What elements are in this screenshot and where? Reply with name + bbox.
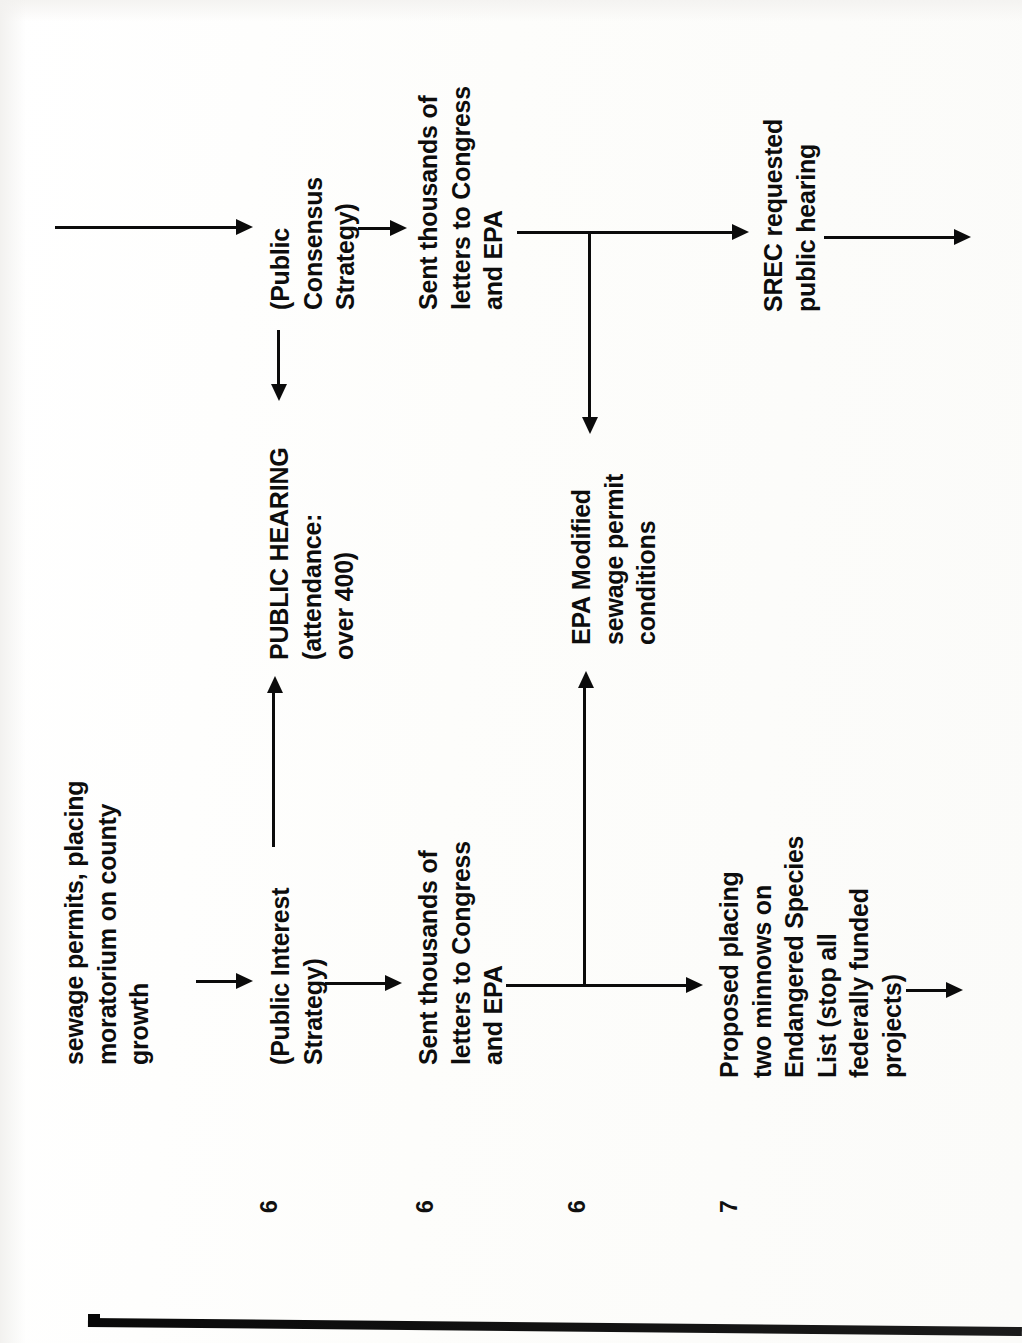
node-sewage-permits: sewage permits, placing moratorium on co…	[58, 781, 156, 1065]
node-line: conditions	[630, 474, 663, 645]
page-edge-shading-top	[0, 0, 1022, 22]
scan-artifact-bar-cap	[88, 1314, 100, 1327]
connector-srec-continue-line	[824, 236, 956, 239]
node-line: PUBLIC HEARING	[263, 448, 296, 660]
connector-consensus-to-letters-upper-line	[358, 227, 392, 230]
page-mark: 7	[716, 1200, 743, 1213]
scanned-page-background	[0, 0, 1022, 1343]
arrow-consensus-to-letters-upper-head	[390, 220, 407, 236]
arrow-letters-lower-to-minnows-head	[686, 977, 703, 993]
connector-interest-up-line	[272, 690, 275, 847]
node-line: Sent thousands of	[412, 86, 445, 310]
node-public-interest-strategy: (Public Interest Strategy)	[264, 888, 329, 1065]
node-epa-modified: EPA Modified sewage permit conditions	[565, 474, 663, 645]
node-line: sewage permit	[598, 474, 631, 645]
connector-letters-lower-to-minnows-line	[506, 984, 688, 987]
node-line: letters to Congress	[445, 86, 478, 310]
node-line: Endangered Species	[778, 836, 811, 1078]
node-line: Strategy)	[329, 177, 362, 310]
node-line: (Public Interest	[264, 888, 297, 1065]
node-line: EPA Modified	[565, 474, 598, 645]
arrow-interest-to-letters-lower-head	[385, 975, 402, 991]
node-line: and EPA	[477, 86, 510, 310]
connector-interest-to-letters-lower-line	[325, 982, 387, 985]
node-line: public hearing	[790, 119, 823, 312]
node-line: sewage permits, placing	[58, 781, 91, 1065]
node-line: growth	[123, 781, 156, 1065]
connector-junction-up-to-epa-line	[583, 686, 586, 986]
node-public-consensus-strategy: (Public Consensus Strategy)	[264, 177, 362, 310]
arrow-sewage-to-interest-head	[236, 973, 253, 989]
page-mark: 6	[564, 1200, 591, 1213]
node-line: (attendance:	[296, 448, 329, 660]
node-srec-requested-hearing: SREC requested public hearing	[757, 119, 822, 312]
node-line: over 400)	[328, 448, 361, 660]
arrow-interest-up-head	[267, 676, 283, 693]
arrow-minnows-continue-head	[946, 982, 963, 998]
node-line: letters to Congress	[445, 841, 478, 1065]
node-line: List (stop all	[811, 836, 844, 1078]
connector-consensus-down-line	[277, 330, 280, 386]
node-line: projects)	[876, 836, 909, 1078]
node-line: Proposed placing	[713, 836, 746, 1078]
arrow-srec-continue-head	[954, 229, 971, 245]
connector-sewage-to-interest-line	[196, 980, 238, 983]
node-line: Strategy)	[297, 888, 330, 1065]
page-mark: 6	[412, 1200, 439, 1213]
node-sent-letters-upper: Sent thousands of letters to Congress an…	[412, 86, 510, 310]
node-public-hearing: PUBLIC HEARING (attendance: over 400)	[263, 448, 361, 660]
node-line: and EPA	[477, 841, 510, 1065]
node-line: moratorium on county	[91, 781, 124, 1065]
node-line: two minnows on	[746, 836, 779, 1078]
node-line: Consensus	[297, 177, 330, 310]
page-mark: 6	[256, 1200, 283, 1213]
connector-junction-down-to-epa-line	[588, 233, 591, 419]
node-sent-letters-lower: Sent thousands of letters to Congress an…	[412, 841, 510, 1065]
arrow-junction-down-to-epa-head	[582, 417, 598, 434]
arrow-hearing-to-consensus-head	[236, 219, 253, 235]
node-line: (Public	[264, 177, 297, 310]
connector-hearing-to-consensus-line	[55, 226, 237, 229]
node-line: federally funded	[843, 836, 876, 1078]
node-proposed-minnows: Proposed placing two minnows on Endanger…	[713, 836, 908, 1078]
arrow-letters-upper-to-srec-head	[732, 224, 749, 240]
node-line: SREC requested	[757, 119, 790, 312]
arrow-junction-up-to-epa-head	[578, 671, 594, 688]
connector-minnows-continue-line	[906, 989, 948, 992]
arrow-consensus-down-head	[271, 384, 287, 401]
node-line: Sent thousands of	[412, 841, 445, 1065]
connector-letters-upper-to-srec-line	[517, 231, 734, 234]
page-edge-shading-left	[0, 0, 26, 1343]
